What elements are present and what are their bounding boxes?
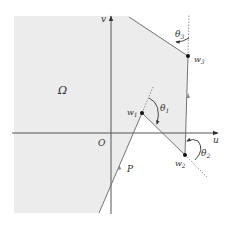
vertex-w1 bbox=[140, 111, 144, 115]
label-w3: w3 bbox=[194, 55, 205, 65]
label-theta2: θ2 bbox=[201, 148, 210, 159]
region-omega bbox=[14, 16, 188, 213]
extension-w3 bbox=[188, 14, 189, 56]
origin-label: O bbox=[98, 138, 106, 148]
u-axis-label: u bbox=[213, 135, 219, 145]
label-w2: w2 bbox=[175, 159, 186, 169]
polygon-diagram: Ω v u O P w1 w2 w3 θ1 θ2 θ3 bbox=[0, 0, 236, 228]
vertex-w3 bbox=[186, 54, 190, 58]
path-label: P bbox=[126, 164, 134, 174]
region-label: Ω bbox=[57, 84, 67, 97]
label-theta3: θ3 bbox=[175, 29, 184, 40]
vertex-w2 bbox=[183, 153, 187, 157]
angle-arc-theta2 bbox=[187, 140, 201, 161]
v-axis-label: v bbox=[101, 14, 106, 24]
